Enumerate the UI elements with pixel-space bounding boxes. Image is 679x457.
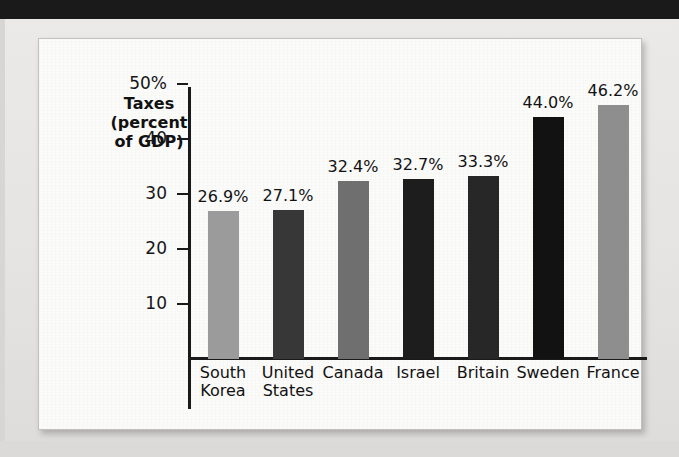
bar-value-label-sweden: 44.0% xyxy=(515,95,581,111)
x-label-line: France xyxy=(579,364,647,382)
left-edge-strip xyxy=(0,19,5,457)
x-label-line: South xyxy=(189,364,257,382)
y-tick-10 xyxy=(177,303,188,305)
bar-france[interactable] xyxy=(598,105,629,359)
bar-value-label-canada: 32.4% xyxy=(320,159,386,175)
plot-area: 50%40302010 26.9%27.1%32.4%32.7%33.3%44.… xyxy=(39,39,641,429)
x-label-line: Israel xyxy=(384,364,452,382)
x-label-line: Korea xyxy=(189,382,257,400)
y-tick-40 xyxy=(177,138,188,140)
x-label-sweden: Sweden xyxy=(514,364,582,382)
x-label-israel: Israel xyxy=(384,364,452,382)
bar-canada[interactable] xyxy=(338,181,369,359)
x-label-line: United xyxy=(254,364,322,382)
y-tick-20 xyxy=(177,248,188,250)
y-tick-label-20: 20 xyxy=(145,240,167,257)
y-tick-label-10: 10 xyxy=(145,295,167,312)
y-axis-line xyxy=(188,87,191,409)
x-label-line: States xyxy=(254,382,322,400)
bar-value-label-south-korea: 26.9% xyxy=(190,189,256,205)
bar-south-korea[interactable] xyxy=(208,211,239,359)
bottom-page-strip xyxy=(0,441,679,457)
y-tick-label-50: 50% xyxy=(129,75,167,92)
bar-united-states[interactable] xyxy=(273,210,304,359)
bar-sweden[interactable] xyxy=(533,117,564,359)
top-black-band xyxy=(0,0,679,19)
x-label-canada: Canada xyxy=(319,364,387,382)
y-tick-label-30: 30 xyxy=(145,185,167,202)
x-label-united-states: UnitedStates xyxy=(254,364,322,400)
bar-britain[interactable] xyxy=(468,176,499,359)
y-tick-30 xyxy=(177,193,188,195)
x-label-line: Sweden xyxy=(514,364,582,382)
x-label-south-korea: SouthKorea xyxy=(189,364,257,400)
y-tick-label-40: 40 xyxy=(145,130,167,147)
x-label-britain: Britain xyxy=(449,364,517,382)
bar-israel[interactable] xyxy=(403,179,434,359)
x-label-line: Canada xyxy=(319,364,387,382)
x-label-line: Britain xyxy=(449,364,517,382)
bar-value-label-france: 46.2% xyxy=(580,83,646,99)
x-label-france: France xyxy=(579,364,647,382)
bar-value-label-britain: 33.3% xyxy=(450,154,516,170)
bar-value-label-israel: 32.7% xyxy=(385,157,451,173)
bar-value-label-united-states: 27.1% xyxy=(255,188,321,204)
chart-panel: Taxes (percent of GDP) 50%40302010 26.9%… xyxy=(38,38,642,430)
y-tick-50 xyxy=(177,83,188,85)
